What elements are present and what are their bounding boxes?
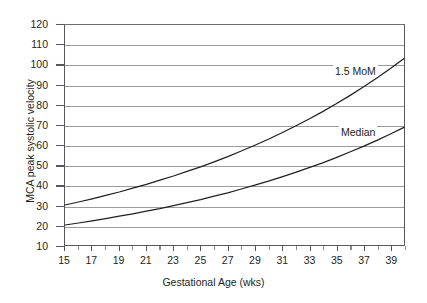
y-axis-tick bbox=[56, 24, 64, 25]
x-axis-tick bbox=[78, 246, 79, 250]
series-label-median: Median bbox=[339, 126, 377, 138]
y-axis-tick-label-wrap: 50 bbox=[18, 165, 52, 176]
x-axis-tick bbox=[350, 246, 351, 250]
y-axis-tick-label-wrap: 120 bbox=[18, 24, 52, 35]
y-axis-tick-label: 100 bbox=[18, 59, 48, 70]
x-axis-tick bbox=[187, 246, 188, 250]
y-axis-tick-label: 30 bbox=[18, 200, 48, 211]
x-axis-tick bbox=[391, 246, 392, 251]
y-axis-tick-label: 120 bbox=[18, 19, 48, 30]
y-axis-tick bbox=[56, 64, 64, 65]
y-axis-tick bbox=[56, 85, 64, 86]
x-axis-tick bbox=[119, 246, 120, 251]
y-axis-tick-label-wrap: 100 bbox=[18, 64, 52, 75]
x-axis-tick-label: 27 bbox=[215, 255, 241, 266]
x-axis-tick bbox=[337, 246, 338, 251]
x-axis-tick-label: 15 bbox=[51, 255, 77, 266]
y-axis-tick bbox=[56, 105, 64, 106]
y-axis-tick-label-wrap: 90 bbox=[18, 85, 52, 96]
x-axis-tick bbox=[405, 246, 406, 250]
y-axis-tick bbox=[56, 165, 64, 166]
x-axis-tick bbox=[173, 246, 174, 251]
y-axis-tick-label: 20 bbox=[18, 221, 48, 232]
x-axis-tick bbox=[64, 246, 65, 251]
chart-figure: MCA peak systolic velocity 1020304050607… bbox=[0, 0, 427, 303]
x-axis-tick-label: 31 bbox=[269, 255, 295, 266]
y-axis-tick-label: 110 bbox=[18, 39, 48, 50]
x-axis-tick bbox=[296, 246, 297, 250]
x-axis-title: Gestational Age (wks) bbox=[0, 276, 427, 288]
y-axis-tick-label-wrap: 80 bbox=[18, 105, 52, 116]
y-axis-tick-label-wrap: 30 bbox=[18, 206, 52, 217]
y-axis-tick-label: 60 bbox=[18, 140, 48, 151]
x-axis-tick bbox=[269, 246, 270, 250]
y-axis-tick-label: 80 bbox=[18, 99, 48, 110]
y-axis-tick bbox=[56, 145, 64, 146]
x-axis-tick bbox=[378, 246, 379, 250]
y-axis-tick-label-wrap: 60 bbox=[18, 145, 52, 156]
x-axis-tick bbox=[282, 246, 283, 251]
series-line bbox=[65, 127, 404, 225]
y-axis-tick-label-wrap: 40 bbox=[18, 185, 52, 196]
x-axis-tick-label: 19 bbox=[106, 255, 132, 266]
y-axis-tick bbox=[56, 206, 64, 207]
x-axis-tick bbox=[159, 246, 160, 250]
x-axis-tick-label: 23 bbox=[160, 255, 186, 266]
x-axis-tick-label: 21 bbox=[133, 255, 159, 266]
x-axis-tick-label: 25 bbox=[187, 255, 213, 266]
y-axis-tick bbox=[56, 125, 64, 126]
x-axis-tick bbox=[310, 246, 311, 251]
y-axis-tick-label: 70 bbox=[18, 120, 48, 131]
x-axis-tick-label: 35 bbox=[324, 255, 350, 266]
y-axis-tick-label: 90 bbox=[18, 79, 48, 90]
x-axis-tick-label: 39 bbox=[378, 255, 404, 266]
x-axis-tick bbox=[91, 246, 92, 251]
x-axis-tick bbox=[146, 246, 147, 251]
y-axis-tick bbox=[56, 44, 64, 45]
x-axis-tick bbox=[132, 246, 133, 250]
y-axis-tick-label: 10 bbox=[18, 241, 48, 252]
x-axis-tick-label: 17 bbox=[78, 255, 104, 266]
x-axis-tick bbox=[241, 246, 242, 250]
x-axis-tick bbox=[323, 246, 324, 250]
y-axis-tick-label-wrap: 10 bbox=[18, 246, 52, 257]
x-axis-tick bbox=[255, 246, 256, 251]
x-axis-tick bbox=[105, 246, 106, 250]
x-axis-tick bbox=[200, 246, 201, 251]
x-axis-tick bbox=[364, 246, 365, 251]
y-axis-tick-label: 40 bbox=[18, 180, 48, 191]
y-axis-tick-label-wrap: 70 bbox=[18, 125, 52, 136]
x-axis-tick bbox=[228, 246, 229, 251]
y-axis-tick-label: 50 bbox=[18, 160, 48, 171]
y-axis-tick bbox=[56, 246, 64, 247]
series-label-1-5-mom: 1.5 MoM bbox=[333, 65, 378, 77]
x-axis-tick-label: 33 bbox=[297, 255, 323, 266]
x-axis-tick-label: 29 bbox=[242, 255, 268, 266]
y-axis-tick-label-wrap: 110 bbox=[18, 44, 52, 55]
x-axis-tick-label: 37 bbox=[351, 255, 377, 266]
x-axis-tick bbox=[214, 246, 215, 250]
y-axis-tick-label-wrap: 20 bbox=[18, 226, 52, 237]
y-axis-tick bbox=[56, 185, 64, 186]
y-axis-tick bbox=[56, 226, 64, 227]
